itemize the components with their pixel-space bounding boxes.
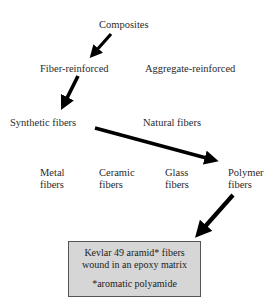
node-synthetic-fibers: Synthetic fibers xyxy=(10,117,76,129)
arrow-composites-to-fiber xyxy=(95,34,111,52)
result-box-kevlar: Kevlar 49 aramid* fibers wound in an epo… xyxy=(68,241,201,297)
node-natural-fibers: Natural fibers xyxy=(143,117,201,129)
arrow-fiber-to-synthetic xyxy=(65,76,78,102)
node-polymer-fibers: Polymer fibers xyxy=(228,167,264,191)
node-fiber-reinforced: Fiber-reinforced xyxy=(40,63,109,75)
node-metal-fibers: Metal fibers xyxy=(40,167,65,191)
arrow-polymer-to-kevlar xyxy=(202,195,233,230)
result-footnote: *aromatic polyamide xyxy=(69,278,200,290)
node-glass-fibers: Glass fibers xyxy=(165,167,189,191)
node-aggregate-reinforced: Aggregate-reinforced xyxy=(145,63,235,75)
node-composites: Composites xyxy=(99,19,149,31)
result-line-1: Kevlar 49 aramid* fibers xyxy=(69,247,200,259)
node-ceramic-fibers: Ceramic fibers xyxy=(99,167,135,191)
result-line-2: wound in an epoxy matrix xyxy=(69,259,200,271)
arrow-synthetic-to-polymer xyxy=(95,128,210,159)
